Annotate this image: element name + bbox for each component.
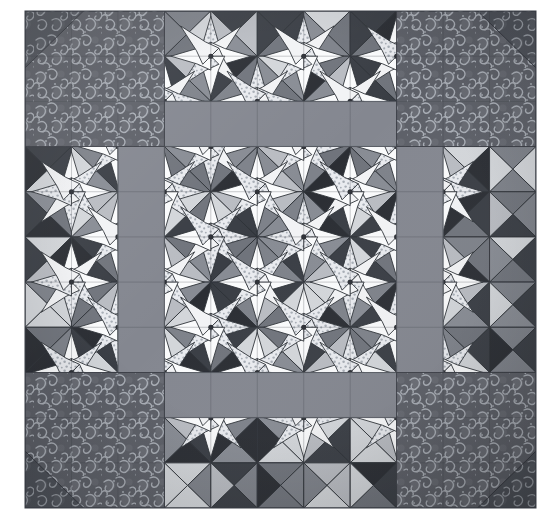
quilt-body — [25, 11, 536, 508]
quilt-canvas — [0, 0, 557, 528]
vignette — [25, 11, 536, 508]
quilt-photograph: Patchwork Star Quilt Square patchwork qu… — [0, 0, 557, 528]
